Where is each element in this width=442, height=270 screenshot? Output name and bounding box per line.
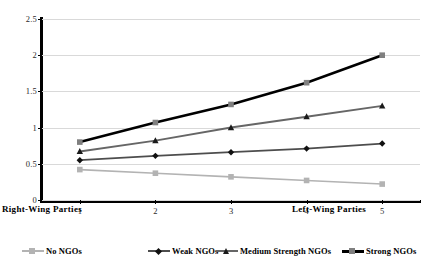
x-tick-label: 5	[380, 206, 384, 216]
series-weak-ngos	[77, 140, 386, 163]
x-tick-mark	[155, 200, 156, 204]
data-point	[379, 52, 385, 58]
plot-area: 00.511.522.5 12345	[42, 19, 420, 200]
data-series-layer	[42, 19, 420, 200]
axis-caption-left-wing: Left-Wing Parties	[292, 204, 366, 214]
data-point	[228, 174, 234, 180]
series-strong-ngos	[77, 52, 385, 144]
data-point	[303, 145, 309, 151]
legend-label: No NGOs	[46, 246, 82, 256]
data-point	[379, 140, 385, 146]
data-point	[77, 167, 83, 173]
series-no-ngos	[77, 167, 385, 187]
data-point	[228, 149, 234, 155]
data-point	[153, 120, 159, 126]
y-tick-label: 0.5	[26, 159, 37, 169]
data-point	[153, 170, 159, 176]
legend-label: Medium Strength NGOs	[240, 246, 331, 256]
legend-label: Weak NGOs	[172, 246, 218, 256]
data-point	[77, 139, 83, 145]
legend-item-strong-ngos[interactable]: Strong NGOs	[342, 243, 416, 259]
legend-label: Strong NGOs	[366, 246, 416, 256]
data-point	[228, 102, 234, 108]
data-point	[304, 80, 310, 86]
data-point	[304, 178, 310, 184]
legend-item-no-ngos[interactable]: No NGOs	[22, 243, 82, 259]
axis-caption-right-wing: Right-Wing Parties	[2, 204, 82, 214]
legend-swatch-icon	[22, 246, 44, 256]
legend-item-medium-strength-ngos[interactable]: Medium Strength NGOs	[216, 243, 331, 259]
data-point	[152, 153, 158, 159]
y-tick-label: 2.5	[26, 14, 37, 24]
y-tick-mark	[38, 200, 42, 201]
legend-swatch-icon	[342, 246, 364, 256]
chart-legend: No NGOsWeak NGOsMedium Strength NGOsStro…	[0, 243, 442, 263]
y-tick-label: 2	[33, 50, 37, 60]
data-point	[77, 157, 83, 163]
legend-swatch-icon	[216, 246, 238, 256]
chart-figure: 00.511.522.5 12345 Right-Wing Parties Le…	[0, 0, 442, 270]
legend-swatch-icon	[148, 246, 170, 256]
x-tick-mark	[382, 200, 383, 204]
data-point	[379, 181, 385, 187]
y-tick-label: 1.5	[26, 86, 37, 96]
x-tick-label: 3	[229, 206, 233, 216]
x-tick-label: 2	[153, 206, 157, 216]
y-tick-label: 1	[33, 123, 37, 133]
legend-item-weak-ngos[interactable]: Weak NGOs	[148, 243, 218, 259]
x-tick-mark	[231, 200, 232, 204]
